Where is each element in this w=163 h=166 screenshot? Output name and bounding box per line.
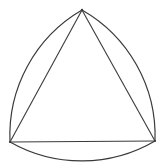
reuleaux-triangle-diagram bbox=[0, 0, 163, 166]
vertex-bottom-right bbox=[154, 140, 156, 142]
vertex-bottom-left bbox=[9, 141, 11, 143]
vertex-top bbox=[81, 9, 83, 11]
triangle-edge-right bbox=[82, 10, 155, 141]
arc-bottom bbox=[10, 141, 155, 161]
inscribed-triangle bbox=[10, 10, 155, 142]
triangle-edge-bottom bbox=[10, 141, 155, 142]
triangle-edge-left bbox=[10, 10, 82, 142]
reuleaux-arcs bbox=[10, 10, 155, 161]
